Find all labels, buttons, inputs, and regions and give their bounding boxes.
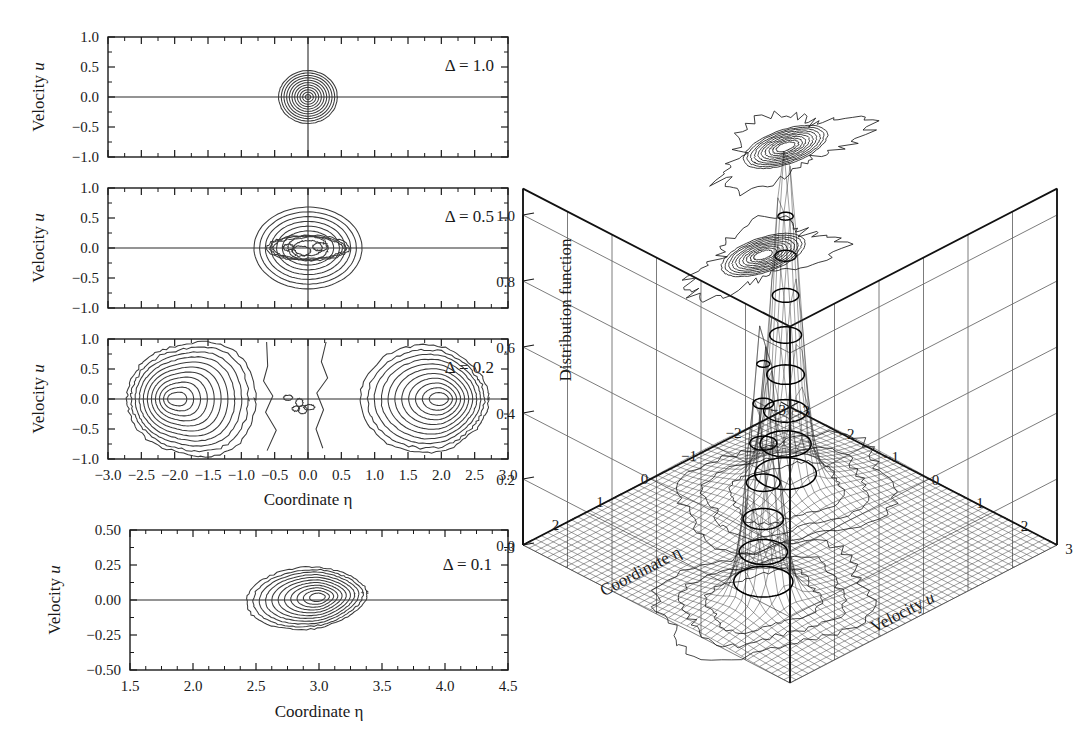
z-tick-label: 1.0 bbox=[496, 208, 515, 224]
y-tick-label: 0.5 bbox=[80, 361, 99, 377]
x-tick-label: −2.5 bbox=[128, 467, 155, 483]
z-axis-title: Distribution function bbox=[556, 238, 575, 382]
contour-line bbox=[264, 342, 277, 451]
u-tick-label: 1 bbox=[976, 495, 984, 511]
z-tick-label: 0.4 bbox=[496, 406, 515, 422]
eta-tick-label: −3 bbox=[770, 402, 786, 418]
y-tick-label: 0.00 bbox=[95, 592, 121, 608]
x-tick-label: −1.0 bbox=[228, 467, 255, 483]
contour-set bbox=[247, 567, 368, 630]
y-tick-label: 0.50 bbox=[95, 522, 121, 538]
y-axis-title: Velocity u bbox=[29, 213, 48, 282]
eta-tick-label: −1 bbox=[681, 448, 697, 464]
u-tick-label: 3 bbox=[1065, 541, 1073, 557]
panel-delta-02: 1.00.50.0−0.5−1.0Velocity uΔ = 0.2−3.0−2… bbox=[29, 331, 517, 509]
panel-delta-05: 1.00.50.0−0.5−1.0Velocity uΔ = 0.5 bbox=[29, 180, 508, 316]
x-tick-label: −2.0 bbox=[161, 467, 188, 483]
y-axis-title: Velocity u bbox=[45, 565, 64, 634]
x-tick-label: 1.5 bbox=[399, 467, 418, 483]
x-axis-title: Coordinate η bbox=[275, 702, 364, 721]
y-tick-label: 0.5 bbox=[80, 210, 99, 226]
y-tick-label: −0.5 bbox=[72, 119, 99, 135]
x-tick-label: 4.0 bbox=[436, 678, 455, 694]
ceiling-contour-line bbox=[753, 250, 772, 260]
y-tick-label: 0.0 bbox=[80, 89, 99, 105]
y-tick-label: 1.0 bbox=[80, 180, 99, 196]
eta-tick-label: 1 bbox=[596, 494, 604, 510]
ceiling-contour-line bbox=[754, 131, 816, 163]
x-tick-label: 2.0 bbox=[432, 467, 451, 483]
y-tick-label: −1.0 bbox=[72, 300, 99, 316]
contour-line bbox=[316, 342, 328, 448]
x-tick-label: 2.0 bbox=[184, 678, 203, 694]
y-tick-label: −0.25 bbox=[86, 627, 121, 643]
eta-tick-label: 2 bbox=[552, 517, 560, 533]
y-axis-title: Velocity u bbox=[29, 364, 48, 433]
y-tick-label: 0.0 bbox=[80, 391, 99, 407]
x-tick-label: 0.0 bbox=[299, 467, 318, 483]
u-tick-label: −2 bbox=[839, 426, 855, 442]
y-tick-label: 0.5 bbox=[80, 59, 99, 75]
eta-tick-label: 0 bbox=[641, 471, 649, 487]
x-tick-label: −3.0 bbox=[94, 467, 121, 483]
u-tick-label: −1 bbox=[883, 449, 899, 465]
x-tick-label: 0.5 bbox=[332, 467, 351, 483]
z-tick-label: 0.8 bbox=[496, 274, 515, 290]
y-tick-label: −0.5 bbox=[72, 270, 99, 286]
z-tick-label: 0.2 bbox=[496, 472, 515, 488]
y-tick-label: 0.0 bbox=[80, 240, 99, 256]
y-tick-label: −0.5 bbox=[72, 421, 99, 437]
contour-line bbox=[284, 395, 293, 400]
panel-label-delta: Δ = 1.0 bbox=[445, 56, 494, 75]
x-tick-label: 3.0 bbox=[310, 678, 329, 694]
x-tick-label: 1.5 bbox=[121, 678, 140, 694]
figure-canvas: 1.00.50.0−0.5−1.0Velocity uΔ = 1.01.00.5… bbox=[0, 0, 1074, 753]
u-tick-label: 0 bbox=[932, 472, 940, 488]
y-tick-label: −0.50 bbox=[86, 662, 121, 678]
x-tick-label: 1.0 bbox=[365, 467, 384, 483]
x-tick-label: 3.5 bbox=[373, 678, 392, 694]
y-axis-title: Velocity u bbox=[29, 62, 48, 131]
panel-delta-1: 1.00.50.0−0.5−1.0Velocity uΔ = 1.0 bbox=[29, 29, 508, 165]
figure-root: 1.00.50.0−0.5−1.0Velocity uΔ = 1.01.00.5… bbox=[0, 0, 1074, 753]
u-tick-label: 2 bbox=[1021, 518, 1029, 534]
eta-tick-label: 3 bbox=[507, 540, 515, 556]
y-tick-label: 1.0 bbox=[80, 29, 99, 45]
panel-label-delta: Δ = 0.5 bbox=[445, 207, 494, 226]
u-tick-label: −3 bbox=[794, 403, 810, 419]
x-tick-label: −1.5 bbox=[194, 467, 221, 483]
x-tick-label: 4.5 bbox=[499, 678, 518, 694]
x-tick-label: 2.5 bbox=[465, 467, 484, 483]
eta-tick-label: −2 bbox=[726, 425, 742, 441]
y-tick-label: −1.0 bbox=[72, 149, 99, 165]
panel-label-delta: Δ = 0.1 bbox=[443, 555, 492, 574]
peak-contour-band bbox=[772, 289, 799, 303]
contour-line bbox=[291, 585, 338, 610]
x-tick-label: 2.5 bbox=[247, 678, 266, 694]
y-tick-label: 1.0 bbox=[80, 331, 99, 347]
panel-delta-01: 0.500.250.00−0.25−0.501.52.02.53.03.54.0… bbox=[45, 522, 517, 721]
x-tick-label: −0.5 bbox=[261, 467, 288, 483]
surface-3d: 1.00.80.60.40.20.0Distribution function3… bbox=[496, 111, 1073, 683]
z-tick-label: 0.6 bbox=[496, 340, 515, 356]
contour-line bbox=[296, 398, 304, 406]
y-tick-label: 0.25 bbox=[95, 557, 121, 573]
x-axis-title: Coordinate η bbox=[264, 490, 353, 509]
y-tick-label: −1.0 bbox=[72, 451, 99, 467]
